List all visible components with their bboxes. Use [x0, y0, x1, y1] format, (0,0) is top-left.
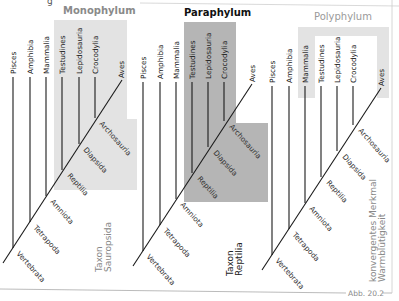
leaf-label: Lepidosauria	[204, 32, 213, 79]
panel-title: Polyphylum	[314, 11, 372, 22]
leaf-label: Lepidosauria	[333, 36, 342, 83]
node-label: Reptilia	[325, 178, 350, 204]
taxon-label-line2: Sauropsida	[103, 222, 113, 272]
leaf-label: Aves	[248, 65, 257, 82]
leaf-label: Testudines	[317, 44, 326, 84]
leaf-label: Crocodylia	[91, 36, 100, 74]
polyphylum-shading	[298, 27, 389, 98]
page-edge-top	[140, 3, 399, 6]
node-label: Amniota	[308, 204, 335, 233]
leaf-label: Testudines	[58, 35, 67, 75]
leaf-label: Pisces	[268, 60, 277, 83]
node-label: Vertebrata	[274, 256, 307, 291]
leaf-label: Crocodylia	[349, 45, 358, 83]
leaf-label: Amphibia	[156, 44, 165, 79]
panel-monophylum: Monophylum Pisces Amphibia Mammalia Test…	[3, 5, 137, 284]
leaf-label: Pisces	[9, 51, 18, 74]
panel-title: Monophylum	[63, 5, 136, 16]
leaf-label: Crocodylia	[220, 41, 229, 79]
leaf-label: Lepidosauria	[75, 27, 84, 74]
panel-title: Paraphylum	[184, 7, 251, 18]
node-label: Tetrapoda	[31, 223, 63, 257]
taxon-label-line2: Reptilia	[234, 242, 244, 276]
leaf-label: Mammalia	[172, 41, 181, 79]
panel-polyphylum: Polyphylum Pisces Amphibia Mammalia Test…	[262, 11, 392, 291]
figure-caption: Abb. 20.2	[348, 289, 384, 298]
top-fragment-text: g	[47, 0, 53, 6]
leaf-label: Mammalia	[42, 36, 51, 74]
leaf-label: Amphibia	[285, 48, 294, 83]
leaf-label: Aves	[117, 61, 126, 78]
leaf-label: Mammalia	[301, 45, 310, 83]
node-label: Diapsida	[341, 152, 369, 182]
leaf-label: Amphibia	[26, 39, 35, 74]
node-label: Vertebrata	[15, 249, 48, 284]
node-label: Amniota	[179, 200, 206, 229]
leaf-label: Testudines	[188, 40, 197, 80]
panel-paraphylum: Paraphylum Pisces Amphibia Mammalia Test…	[133, 7, 268, 287]
cladogram-figure: g Monophylum Pisces Amphibia Mammalia Te…	[0, 0, 399, 301]
node-label: Vertebrata	[145, 252, 178, 287]
node-label: Tetrapoda	[290, 230, 322, 264]
node-label: Archosauria	[357, 126, 393, 164]
bottom-rule	[0, 289, 346, 293]
taxon-label-line2: Warmblütigkeit	[377, 213, 387, 282]
leaf-label: Aves	[377, 69, 386, 86]
node-label: Tetrapoda	[161, 226, 193, 260]
node-label: Amniota	[49, 197, 76, 226]
leaf-label: Pisces	[139, 56, 148, 79]
